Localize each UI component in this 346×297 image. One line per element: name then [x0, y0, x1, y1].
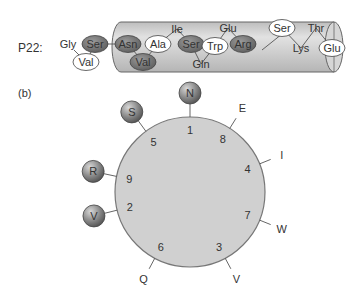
svg-text:1: 1 — [187, 124, 193, 136]
residue-val2: Val — [130, 54, 156, 71]
residue-glu2: Glu — [319, 40, 345, 57]
panel-b-helical-wheel: (b)1N2V3V4I5S6Q7W8E9R — [18, 82, 288, 285]
svg-text:Ala: Ala — [150, 38, 167, 50]
p22-label: P22: — [18, 41, 43, 55]
figure-canvas: P22:GlySerValAsnValAlaIleSerGlnTrpGluArg… — [0, 0, 346, 297]
residue-ile: Ile — [166, 22, 188, 35]
residue-glu1: Glu — [217, 21, 239, 34]
svg-text:Arg: Arg — [234, 38, 251, 50]
residue-val1: Val — [73, 54, 99, 71]
panel-b-letter: (b) — [18, 87, 31, 99]
svg-text:V: V — [233, 273, 241, 285]
svg-text:9: 9 — [126, 173, 132, 185]
svg-text:8: 8 — [220, 133, 226, 145]
residue-gly: Gly — [57, 37, 79, 50]
helical-wheel-circle — [115, 117, 265, 267]
residue-arg: Arg — [230, 36, 256, 53]
svg-text:Asn: Asn — [119, 38, 138, 50]
svg-text:Val: Val — [78, 56, 93, 68]
svg-text:Ile: Ile — [171, 23, 183, 35]
svg-text:Thr: Thr — [308, 22, 325, 34]
svg-text:Gly: Gly — [60, 38, 77, 50]
svg-text:Gln: Gln — [192, 58, 209, 70]
svg-text:Val: Val — [135, 56, 150, 68]
svg-text:6: 6 — [158, 241, 164, 253]
residue-ser3: Ser — [269, 20, 295, 37]
svg-text:V: V — [90, 210, 98, 222]
residue-gln: Gln — [190, 57, 212, 70]
panel-a-helix-cylinder: P22:GlySerValAsnValAlaIleSerGlnTrpGluArg… — [18, 20, 345, 73]
svg-text:Glu: Glu — [219, 22, 236, 34]
svg-text:Q: Q — [139, 273, 148, 285]
svg-text:Ser: Ser — [86, 38, 103, 50]
svg-text:E: E — [239, 102, 246, 114]
svg-text:Lys: Lys — [293, 42, 310, 54]
svg-text:S: S — [128, 106, 135, 118]
helix-figure: P22:GlySerValAsnValAlaIleSerGlnTrpGluArg… — [0, 0, 346, 297]
svg-text:W: W — [277, 223, 288, 235]
svg-text:I: I — [280, 149, 283, 161]
svg-text:Ser: Ser — [273, 22, 290, 34]
svg-text:3: 3 — [216, 241, 222, 253]
svg-text:2: 2 — [127, 201, 133, 213]
svg-text:Glu: Glu — [323, 42, 340, 54]
residue-lys: Lys — [290, 41, 312, 54]
residue-thr: Thr — [305, 21, 327, 34]
svg-text:Trp: Trp — [207, 40, 223, 52]
residue-ala: Ala — [145, 36, 171, 53]
svg-text:Ser: Ser — [182, 38, 199, 50]
residue-asn: Asn — [115, 36, 141, 53]
residue-ser2: Ser — [178, 36, 204, 53]
svg-text:R: R — [89, 165, 97, 177]
svg-text:N: N — [186, 87, 194, 99]
svg-text:7: 7 — [244, 209, 250, 221]
residue-trp: Trp — [202, 38, 228, 55]
svg-text:4: 4 — [244, 163, 250, 175]
residue-ser1: Ser — [82, 36, 108, 53]
svg-text:5: 5 — [150, 136, 156, 148]
